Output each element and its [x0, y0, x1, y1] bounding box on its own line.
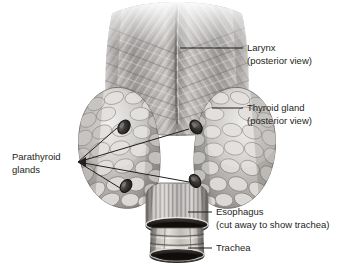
trachea: [148, 228, 206, 263]
label-larynx-line2: (posterior view): [247, 55, 312, 66]
esophagus: [144, 182, 210, 234]
label-thyroid-line2: (posterior view): [247, 115, 312, 126]
label-thyroid-line1: Thyroid gland: [247, 102, 305, 113]
label-parathyroid-line2: glands: [12, 164, 40, 175]
label-larynx-line1: Larynx: [247, 42, 276, 53]
anatomy-figure: Larynx (posterior view) Thyroid gland (p…: [0, 0, 354, 272]
label-esophagus-line2: (cut away to show trachea): [216, 219, 330, 230]
label-esophagus-line1: Esophagus: [216, 206, 264, 217]
label-parathyroid-line1: Parathyroid: [12, 151, 61, 162]
anatomy-illustration: Larynx (posterior view) Thyroid gland (p…: [0, 0, 354, 272]
label-trachea: Trachea: [216, 242, 251, 253]
label-trachea-line1: Trachea: [216, 242, 251, 253]
